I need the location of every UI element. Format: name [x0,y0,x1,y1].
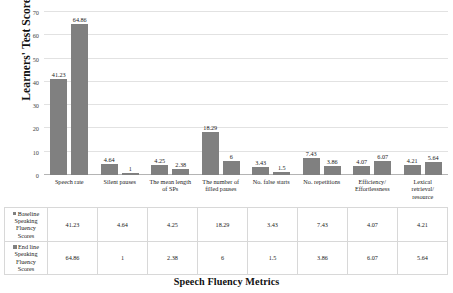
bar-column[interactable]: 4.07 [353,12,370,175]
bar[interactable] [202,132,219,175]
bar-value-label: 3.43 [255,159,266,166]
bar[interactable] [223,161,240,175]
bar-column[interactable]: 3.43 [252,12,269,175]
bar[interactable] [404,165,421,175]
category-label: Efficiency/Effortlessness [347,177,398,207]
y-tick-label: 30 [33,102,39,109]
table-cell-value: 6 [198,241,248,275]
bar[interactable] [71,24,88,175]
bar[interactable] [303,158,320,175]
bar-column[interactable]: 4.21 [404,12,421,175]
category-label: Speech rate [44,177,95,207]
bar-value-label: 64.86 [73,16,87,23]
bar-column[interactable]: 1.5 [273,12,290,175]
bar[interactable] [425,162,442,175]
y-tick-label: 40 [33,78,39,85]
bar[interactable] [353,166,370,175]
bar-value-label: 1.5 [278,164,286,171]
y-tick-label: 20 [33,125,39,132]
bar-group: 4.215.64 [398,12,449,175]
category-label: The number offilled pauses [196,177,247,207]
y-tick-label: 0 [36,172,39,179]
bar-column[interactable]: 3.86 [324,12,341,175]
bar-value-label: 4.64 [104,156,115,163]
bar[interactable] [50,79,67,175]
bar[interactable] [374,161,391,175]
table-cell-value: 1 [98,241,148,275]
table-cell-value: 41.23 [48,208,98,242]
bar-value-label: 4.07 [356,158,367,165]
table-cell-value: 18.29 [198,208,248,242]
y-tick-label: 60 [33,32,39,39]
bar-value-label: 18.29 [203,124,217,131]
category-label: No. false starts [246,177,297,207]
bar-column[interactable]: 2.38 [172,12,189,175]
bar-group: 4.252.38 [145,12,196,175]
bar-column[interactable]: 41.23 [50,12,67,175]
table-row: End lineSpeakingFluencyScores64.8612.386… [5,241,448,275]
bar-value-label: 6.07 [377,153,388,160]
category-axis-labels: Speech rateSilent pausesThe mean lengtho… [44,177,448,207]
table-cell-value: 4.21 [398,208,448,242]
bar-column[interactable]: 7.43 [303,12,320,175]
table-cell-value: 64.86 [48,241,98,275]
bar-column[interactable]: 6 [223,12,240,175]
table-cell-value: 1.5 [248,241,298,275]
bar-value-label: 7.43 [306,150,317,157]
bar-column[interactable]: 64.86 [71,12,88,175]
table-cell-value: 5.64 [398,241,448,275]
bar[interactable] [101,164,118,175]
table-cell-value: 7.43 [298,208,348,242]
bar-value-label: 3.86 [327,158,338,165]
bar-value-label: 4.25 [154,157,165,164]
bar[interactable] [122,173,139,175]
bar-group: 3.431.5 [246,12,297,175]
bar[interactable] [252,167,269,175]
legend-swatch-icon [13,245,16,248]
bar-value-label: 6 [230,153,233,160]
category-label: No. repetitions [297,177,348,207]
table-cell-value: 4.07 [348,208,398,242]
table-cell-value: 2.38 [148,241,198,275]
bar-value-label: 4.21 [407,157,418,164]
table-cell-value: 4.64 [98,208,148,242]
bar-column[interactable]: 6.07 [374,12,391,175]
table-cell-value: 6.07 [348,241,398,275]
plot-area: 010203040506070 41.2364.864.6414.252.381… [44,12,448,175]
y-tick-label: 10 [33,148,39,155]
bar-group: 7.433.86 [297,12,348,175]
bar-value-label: 1 [129,165,132,172]
bar-column[interactable]: 18.29 [202,12,219,175]
table-cell-value: 4.25 [148,208,198,242]
bar-value-label: 41.23 [52,71,66,78]
legend-swatch-icon [13,212,16,215]
category-label: Silent pauses [95,177,146,207]
bar-groups: 41.2364.864.6414.252.3818.2963.431.57.43… [44,12,448,175]
table-cell-value: 3.86 [298,241,348,275]
bar-group: 4.076.07 [347,12,398,175]
table-cell-value: 3.43 [248,208,298,242]
bar-group: 4.641 [95,12,146,175]
bar[interactable] [324,166,341,175]
bar[interactable] [172,169,189,175]
bar[interactable] [273,172,290,175]
bar-column[interactable]: 4.64 [101,12,118,175]
series-legend-label: BaselineSpeakingFluencyScores [5,208,48,242]
data-table: BaselineSpeakingFluencyScores41.234.644.… [4,207,448,275]
bar-group: 41.2364.86 [44,12,95,175]
category-label: The mean lengthof SPs [145,177,196,207]
bar-value-label: 5.64 [428,154,439,161]
bar-column[interactable]: 5.64 [425,12,442,175]
x-axis-title: Speech Fluency Metrics [0,276,453,287]
category-label: Lexicalretrieval/resource [398,177,449,207]
table-row: BaselineSpeakingFluencyScores41.234.644.… [5,208,448,242]
bar-chart-figure: Learners' Test Scores 010203040506070 41… [0,0,453,293]
y-tick-label: 50 [33,55,39,62]
bar-group: 18.296 [196,12,247,175]
y-tick-label: 70 [33,9,39,16]
bar[interactable] [151,165,168,175]
series-legend-label: End lineSpeakingFluencyScores [5,241,48,275]
bar-column[interactable]: 4.25 [151,12,168,175]
bar-value-label: 2.38 [175,161,186,168]
bar-column[interactable]: 1 [122,12,139,175]
